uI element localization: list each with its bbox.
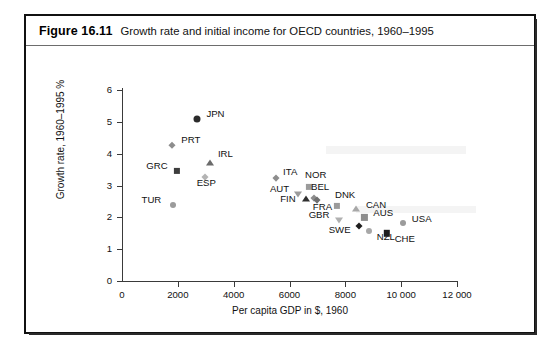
y-axis-label: Growth rate, 1960–1995 % (55, 70, 66, 210)
y-tick (117, 122, 122, 123)
point-label: GRC (146, 161, 167, 171)
tri-marker-icon (302, 195, 310, 201)
y-tick-label: 0 (90, 276, 112, 285)
square-marker-icon (361, 214, 367, 220)
tridown-marker-icon (335, 217, 343, 223)
point-label: AUS (373, 208, 393, 218)
y-tick (117, 90, 122, 91)
point-label: IRL (218, 149, 233, 159)
figure-number: Figure 16.11 (39, 24, 112, 38)
point-label: ESP (197, 178, 216, 188)
x-tick-label: 4000 (204, 289, 264, 300)
y-tick (117, 217, 122, 218)
point-label: CHE (395, 234, 415, 244)
x-axis-label: Per capita GDP in $, 1960 (122, 305, 458, 316)
circle-marker-icon (170, 202, 176, 208)
figure-panel: Figure 16.11 Growth rate and initial inc… (24, 14, 536, 334)
x-tick-label: 8000 (315, 289, 375, 300)
square-marker-icon (334, 203, 340, 209)
x-tick (457, 282, 458, 287)
x-tick (234, 282, 235, 287)
scatter-plot: Growth rate, 1960–1995 % Per capita GDP … (26, 46, 534, 332)
point-label: SWE (329, 225, 351, 235)
x-tick (178, 282, 179, 287)
tri-marker-icon (206, 159, 214, 165)
y-tick (117, 186, 122, 187)
x-tick-label: 12 000 (427, 289, 487, 300)
diamond-marker-icon (169, 142, 176, 149)
point-label: GBR (309, 210, 330, 220)
x-tick (290, 282, 291, 287)
point-label: DNK (335, 190, 355, 200)
y-tick-label: 3 (90, 181, 112, 190)
y-tick-label: 1 (90, 244, 112, 253)
diamond-marker-icon (355, 223, 362, 230)
point-label: ITA (283, 167, 297, 177)
square-marker-icon (174, 168, 180, 174)
point-label: PRT (181, 135, 200, 145)
x-tick-label: 2000 (148, 289, 208, 300)
circle-marker-icon (400, 220, 406, 226)
tri-marker-icon (352, 206, 360, 212)
circle-marker-icon (194, 115, 201, 122)
point-label: TUR (142, 195, 162, 205)
y-tick (117, 249, 122, 250)
square-marker-icon (383, 230, 389, 236)
point-label: NOR (305, 170, 326, 180)
diamond-marker-icon (273, 175, 280, 182)
figure-caption-text: Growth rate and initial income for OECD … (120, 25, 433, 37)
point-label: BEL (311, 182, 329, 192)
circle-marker-icon (366, 228, 372, 234)
point-label: FIN (280, 194, 295, 204)
y-tick-label: 2 (90, 212, 112, 221)
x-tick (345, 282, 346, 287)
x-tick-label: 10 000 (371, 289, 431, 300)
y-tick-label: 5 (90, 117, 112, 126)
figure-caption-bar: Figure 16.11 Growth rate and initial inc… (26, 16, 534, 46)
y-tick-label: 6 (90, 85, 112, 94)
y-axis-line (122, 88, 123, 282)
x-tick-label: 0 (92, 289, 152, 300)
x-tick (401, 282, 402, 287)
point-label: USA (412, 214, 432, 224)
y-tick (117, 281, 122, 282)
y-tick (117, 154, 122, 155)
x-tick-label: 6000 (260, 289, 320, 300)
y-tick-label: 4 (90, 149, 112, 158)
point-label: JPN (206, 109, 224, 119)
